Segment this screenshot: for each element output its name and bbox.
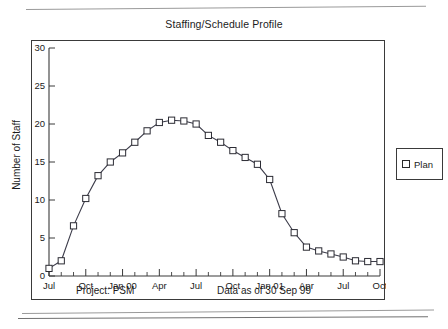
y-tick-label: 10 (34, 194, 45, 205)
data-point-marker (279, 211, 285, 217)
page-rule-top (26, 6, 426, 10)
data-point-marker (83, 195, 89, 201)
page-rule-bottom-a (22, 309, 434, 314)
x-tick-label: Jul (43, 280, 55, 291)
y-tick-label: 15 (34, 156, 45, 167)
plot-panel: 051015202530 JulOctJan 00AprJulOctJan 01… (31, 40, 385, 300)
x-tick-label: Jul (190, 280, 202, 291)
project-note: Project: PSM (76, 285, 134, 296)
x-tick-label: Apr (152, 280, 167, 291)
y-tick-label: 25 (34, 80, 45, 91)
y-tick-label: 30 (34, 42, 45, 53)
data-point-marker (205, 132, 211, 138)
y-tick-label: 5 (40, 232, 45, 243)
data-point-marker (132, 139, 138, 145)
data-point-marker (291, 230, 297, 236)
data-point-marker (328, 251, 334, 257)
data-point-marker (316, 248, 322, 254)
data-point-marker (365, 258, 371, 264)
x-tick-label: Jul (337, 280, 349, 291)
legend-marker-icon (402, 160, 410, 168)
data-point-marker (46, 265, 52, 271)
chart-title: Staffing/Schedule Profile (0, 18, 448, 30)
data-point-marker (340, 254, 346, 260)
data-point-marker (168, 117, 174, 123)
y-axis-title: Number of Staff (11, 120, 22, 190)
x-tick-label: Oct (373, 280, 386, 291)
data-point-marker (254, 161, 260, 167)
chart-plot-area: 051015202530 JulOctJan 00AprJulOctJan 01… (32, 41, 386, 301)
data-point-marker (352, 258, 358, 264)
data-point-marker (218, 139, 224, 145)
data-point-marker (193, 121, 199, 127)
data-point-marker (119, 150, 125, 156)
data-point-marker (303, 244, 309, 250)
data-point-marker (58, 258, 64, 264)
page-rule-bottom-b (18, 316, 428, 319)
legend-label-plan: Plan (414, 159, 433, 170)
chart-legend: Plan (396, 148, 443, 180)
data-as-of-note: Data as of 30 Sep 99 (217, 285, 311, 296)
data-point-marker (181, 118, 187, 124)
data-point-marker (377, 258, 383, 264)
data-point-marker (107, 159, 113, 165)
y-axis: 051015202530 (34, 42, 55, 281)
series-plan (46, 117, 383, 271)
data-point-marker (95, 173, 101, 179)
series-line-plan (49, 120, 380, 268)
data-point-marker (267, 176, 273, 182)
data-point-marker (242, 154, 248, 160)
data-point-marker (156, 119, 162, 125)
data-point-marker (230, 148, 236, 154)
data-point-marker (70, 223, 76, 229)
y-tick-label: 20 (34, 118, 45, 129)
data-point-marker (144, 128, 150, 134)
